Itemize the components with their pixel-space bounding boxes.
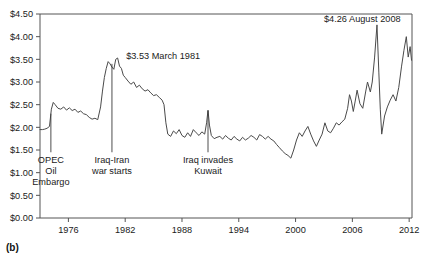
annotation-labels: OPECOilEmbargoIraq-Iranwar startsIraq in… (32, 14, 400, 188)
annotation-peak-2008: $4.26 August 2008 (324, 14, 401, 24)
y-tick-label: $3.50 (10, 55, 33, 65)
x-tick-label: 2000 (285, 225, 305, 235)
annotation-iraq-invades-kuwait: Iraq invades (183, 155, 233, 165)
y-tick-label: $1.50 (10, 145, 33, 155)
x-tick-label: 1982 (115, 225, 135, 235)
x-tick-label: 2012 (399, 225, 419, 235)
annotation-iraq-iran-war-starts: Iraq-Iran (95, 155, 130, 165)
axis-lines (40, 14, 412, 218)
x-tick-label: 1988 (172, 225, 192, 235)
annotation-iraq-invades-kuwait: Kuwait (194, 166, 222, 176)
y-tick-label: $0.00 (10, 213, 33, 223)
y-axis-ticks (36, 14, 40, 218)
y-tick-label: $1.00 (10, 168, 33, 178)
annotation-opec-oil-embargo: OPEC (38, 155, 64, 165)
annotation-peak-1981: $3.53 March 1981 (126, 51, 200, 61)
annotation-opec-oil-embargo: Embargo (32, 177, 69, 187)
y-tick-label: $4.50 (10, 9, 33, 19)
price-series (40, 25, 412, 158)
series-line (40, 25, 412, 158)
x-tick-label: 2006 (342, 225, 362, 235)
plot-frame-top-right (40, 14, 412, 218)
annotation-opec-oil-embargo: Oil (45, 166, 56, 176)
panel-label: (b) (6, 242, 19, 253)
gasoline-price-chart: $0.00$0.50$1.00$1.50$2.00$2.50$3.00$3.50… (0, 0, 434, 266)
y-tick-label: $0.50 (10, 191, 33, 201)
annotation-iraq-iran-war-starts: war starts (91, 166, 132, 176)
y-tick-label: $2.00 (10, 123, 33, 133)
x-axis-ticks (68, 218, 409, 222)
y-tick-label: $3.00 (10, 77, 33, 87)
x-tick-label: 1994 (229, 225, 249, 235)
y-tick-label: $4.00 (10, 32, 33, 42)
y-axis-tick-labels: $0.00$0.50$1.00$1.50$2.00$2.50$3.00$3.50… (10, 9, 33, 223)
y-tick-label: $2.50 (10, 100, 33, 110)
x-axis-tick-labels: 1976198219881994200020062012 (58, 225, 419, 235)
figure-panel-b: $0.00$0.50$1.00$1.50$2.00$2.50$3.00$3.50… (0, 0, 434, 266)
annotation-leader-lines (51, 64, 208, 152)
x-tick-label: 1976 (58, 225, 78, 235)
chart-axes (40, 14, 412, 218)
